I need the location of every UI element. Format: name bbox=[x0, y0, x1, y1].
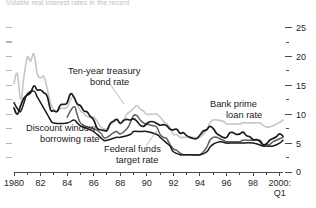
y-axis-tick-label: 15 bbox=[296, 81, 306, 91]
annotation-line2: bond rate bbox=[90, 77, 129, 87]
x-axis-tick-label: 94 bbox=[195, 178, 205, 188]
annotation-label-federal-funds-target-rate: Federal fundstarget rate bbox=[104, 144, 161, 165]
x-axis-tick-label: 84 bbox=[62, 178, 72, 188]
annotation-line1: Ten-year treasury bbox=[68, 66, 141, 76]
annotation-line2: loan rate bbox=[226, 110, 262, 120]
annotation-line2: target rate bbox=[116, 155, 158, 165]
x-axis-tick-label: 88 bbox=[115, 178, 125, 188]
annotation-label-bank-prime-loan-rate: Bank primeloan rate bbox=[210, 99, 262, 120]
x-axis-tick-label: 1980 bbox=[4, 178, 24, 188]
annotation-line2: borrowing rate bbox=[40, 134, 99, 144]
y-axis-tick-label: 25 bbox=[296, 23, 306, 33]
annotation-line1: Discount window bbox=[26, 123, 96, 133]
x-axis-tick-label: 82 bbox=[36, 178, 46, 188]
annotation-label-ten-year-treasury-bond-rate: Ten-year treasurybond rate bbox=[68, 66, 141, 87]
x-axis-tick-label: 2000: bbox=[268, 178, 291, 188]
x-axis-tick-label: 98 bbox=[248, 178, 258, 188]
y-axis-tick-label: 0 bbox=[296, 167, 301, 177]
y-axis-tick-label: 5 bbox=[296, 139, 301, 149]
y-axis-tick-label: 10 bbox=[296, 110, 306, 120]
x-axis-tick-label: 90 bbox=[142, 178, 152, 188]
x-axis-tick-label: 96 bbox=[222, 178, 232, 188]
y-axis-tick-label: 20 bbox=[296, 52, 306, 62]
annotation-line1: Federal funds bbox=[104, 144, 161, 154]
x-axis-tick-label: 86 bbox=[89, 178, 99, 188]
interest-rates-figure: Volatile real interest rates in the rece… bbox=[0, 0, 316, 208]
annotation-leader-ten-year-treasury-bond-rate bbox=[110, 84, 124, 104]
annotation-label-discount-window-borrowing-rate: Discount windowborrowing rate bbox=[26, 123, 99, 144]
x-axis-tick-label: 92 bbox=[168, 178, 178, 188]
annotation-line1: Bank prime bbox=[210, 99, 257, 109]
x-axis-tick-sublabel: Q1 bbox=[274, 188, 286, 198]
line-chart-svg: 051015202519808284868890929496982000:Q1T… bbox=[0, 0, 316, 208]
